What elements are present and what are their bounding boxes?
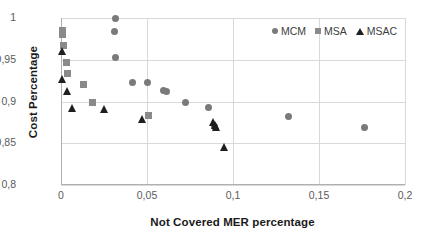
gridline-horizontal	[61, 143, 405, 144]
y-axis-title: Cost Percentage	[27, 12, 39, 172]
y-tick-label: 0,9	[0, 95, 16, 107]
data-point-msa	[89, 99, 96, 106]
data-point-msac	[138, 115, 146, 123]
y-tick-label: 0,95	[0, 53, 16, 65]
y-tick-label: 0,8	[0, 178, 16, 190]
legend-item-msac[interactable]: MSAC	[356, 25, 397, 37]
data-point-mcm	[205, 104, 212, 111]
data-point-mcm	[285, 113, 292, 120]
x-tick-label: 0,15	[299, 189, 339, 201]
gridline-horizontal	[61, 102, 405, 103]
data-point-mcm	[112, 15, 119, 22]
data-point-mcm	[129, 79, 136, 86]
data-point-msac	[220, 143, 228, 151]
data-point-mcm	[144, 79, 151, 86]
data-point-mcm	[163, 88, 170, 95]
legend-label: MSAC	[367, 25, 397, 37]
x-tick-label: 0,2	[385, 189, 425, 201]
data-point-mcm	[361, 124, 368, 131]
x-tick-label: 0	[41, 189, 81, 201]
x-axis-title: Not Covered MER percentage	[60, 216, 405, 228]
y-tick-label: 1	[0, 11, 16, 23]
legend-item-mcm[interactable]: MCM	[272, 25, 306, 37]
square-marker-icon	[315, 28, 321, 34]
data-point-msa	[59, 31, 66, 38]
data-point-msac	[100, 105, 108, 113]
data-point-mcm	[111, 28, 118, 35]
scatter-chart-figure: Cost Percentage Not Covered MER percenta…	[0, 0, 425, 242]
x-tick-label: 0,05	[127, 189, 167, 201]
data-point-msac	[212, 123, 220, 131]
legend-label: MCM	[281, 25, 306, 37]
gridline-horizontal	[61, 185, 405, 186]
data-point-msac	[58, 47, 66, 55]
data-point-mcm	[182, 99, 189, 106]
gridline-vertical	[405, 18, 406, 185]
triangle-marker-icon	[356, 28, 364, 35]
data-point-msac	[68, 104, 76, 112]
y-tick-label: 0,85	[0, 136, 16, 148]
plot-area	[61, 18, 405, 185]
data-point-msac	[58, 75, 66, 83]
data-point-msa	[145, 112, 152, 119]
circle-marker-icon	[272, 28, 278, 34]
x-axis-line	[61, 184, 405, 185]
data-point-msa	[63, 59, 70, 66]
legend-label: MSA	[324, 25, 347, 37]
x-tick-label: 0,1	[213, 189, 253, 201]
legend-item-msa[interactable]: MSA	[315, 25, 347, 37]
data-point-msac	[63, 87, 71, 95]
data-point-msa	[80, 81, 87, 88]
chart-legend: MCMMSAMSAC	[272, 25, 397, 37]
